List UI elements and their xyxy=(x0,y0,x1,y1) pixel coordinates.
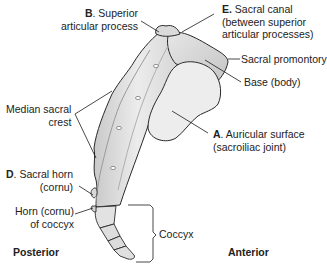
label-text: (between superior xyxy=(222,16,306,28)
leader-line-coccyx-horn xyxy=(75,208,93,214)
foramen xyxy=(117,126,122,129)
leader-line-D xyxy=(79,186,93,195)
label-text: Median sacral xyxy=(6,103,71,115)
label-anterior: Anterior xyxy=(228,246,269,259)
label-text: Sacral canal xyxy=(232,3,293,15)
label-sacral-promontory: Sacral promontory xyxy=(241,53,327,66)
label-text: Sacral promontory xyxy=(241,53,327,65)
label-text: articular process xyxy=(61,20,138,32)
label-text: Base (body) xyxy=(244,76,301,88)
label-median-sacral-crest: Median sacral crest xyxy=(6,103,71,128)
label-text: (cornu) xyxy=(40,181,73,193)
label-letter-B: B xyxy=(85,7,93,19)
label-horn-of-coccyx: Horn (cornu) of coccyx xyxy=(15,205,74,230)
label-base-body: Base (body) xyxy=(244,76,301,89)
label-text: of coccyx xyxy=(30,218,74,230)
label-text: . Auricular surface xyxy=(221,128,305,140)
label-posterior: Posterior xyxy=(13,246,59,259)
label-letter-A: A xyxy=(213,128,221,140)
label-coccyx: Coccyx xyxy=(159,228,193,241)
label-letter-D: D xyxy=(6,168,14,180)
foramen xyxy=(111,166,116,169)
label-sacral-canal: E. Sacral canal (between superior articu… xyxy=(222,3,314,41)
label-text: . Superior xyxy=(93,7,139,19)
label-text: crest xyxy=(49,116,72,128)
foramen xyxy=(154,64,159,67)
superior-articular-process xyxy=(156,25,180,36)
label-text: articular processes) xyxy=(222,28,314,40)
label-text: Horn (cornu) xyxy=(15,205,74,217)
label-text: Posterior xyxy=(13,246,59,258)
sacral-horn xyxy=(91,188,97,198)
label-letter-E: E. xyxy=(222,3,232,15)
coccyx-bone xyxy=(91,206,134,259)
label-text: . Sacral horn xyxy=(14,168,74,180)
label-text: Coccyx xyxy=(159,228,193,240)
label-auricular-surface: A. Auricular surface (sacroiliac joint) xyxy=(213,128,305,153)
coccyx-horn xyxy=(91,206,96,212)
leader-line-B xyxy=(141,21,159,32)
leader-line-E xyxy=(182,14,214,32)
label-text: Anterior xyxy=(228,246,269,258)
label-sacral-horn: D. Sacral horn (cornu) xyxy=(6,168,73,193)
label-text: (sacroiliac joint) xyxy=(213,141,286,153)
label-superior-articular-process: B. Superior articular process xyxy=(61,7,138,32)
foramen xyxy=(136,96,141,99)
